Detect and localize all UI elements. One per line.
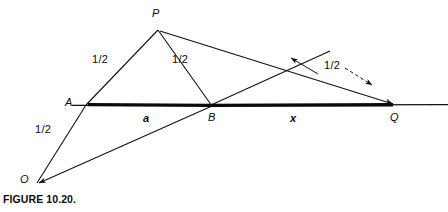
point-label-Q: Q <box>390 112 399 123</box>
segment-O-A <box>37 105 86 183</box>
point-label-B: B <box>208 112 216 123</box>
point-label-P: P <box>152 8 160 19</box>
segment-B-upper-right <box>211 51 330 105</box>
segment-A-P <box>86 30 158 105</box>
measure-arrow-left-half <box>291 58 318 74</box>
segment-label-x: x <box>290 113 296 124</box>
measure-arrow-right-half <box>345 68 372 85</box>
segment-a-bold <box>88 105 212 106</box>
figure-caption: FIGURE 10.20. <box>3 193 76 205</box>
length-label-half-PB: 1/2 <box>172 54 188 65</box>
point-label-O: O <box>20 174 29 185</box>
length-label-half-arrow: 1/2 <box>324 60 340 71</box>
segment-B-O <box>39 106 212 183</box>
segment-P-B <box>158 30 212 106</box>
figure-10-20: P A B Q O 1/2 1/2 1/2 1/2 a x FIGURE 10.… <box>0 0 448 212</box>
segment-label-a: a <box>143 113 149 124</box>
point-label-A: A <box>65 97 73 108</box>
length-label-half-AP: 1/2 <box>92 54 108 65</box>
segment-P-Q <box>160 31 393 104</box>
segment-x-bold <box>212 105 393 106</box>
length-label-half-OA: 1/2 <box>35 124 51 135</box>
